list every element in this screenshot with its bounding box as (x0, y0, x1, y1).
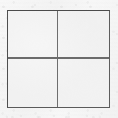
quadrant-bottom-left (8, 59, 57, 107)
quadrant-top-right (58, 11, 109, 57)
quadrant-bottom-right (58, 59, 109, 107)
figure-canvas (0, 0, 118, 118)
quadrant-top-left (8, 11, 57, 57)
grid-square-outline (7, 10, 110, 108)
